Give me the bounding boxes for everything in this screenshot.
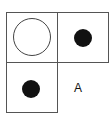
missing-cell-label: A — [74, 81, 82, 95]
filled-dot-icon — [74, 29, 92, 47]
open-circle-icon — [13, 18, 51, 56]
filled-dot-icon — [22, 80, 40, 98]
cell-top-left — [6, 12, 58, 63]
cell-top-right — [57, 12, 109, 63]
cell-bottom-left — [6, 62, 58, 113]
